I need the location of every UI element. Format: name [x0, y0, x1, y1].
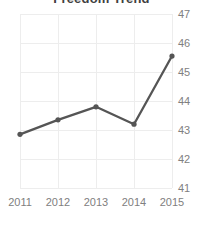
chart-title: Freedom Trend — [0, 0, 203, 6]
y-tick-label-42: 42 — [178, 153, 202, 165]
plot-area — [20, 14, 172, 188]
data-point-2012 — [55, 117, 60, 122]
x-tick-label-2015: 2015 — [149, 196, 195, 208]
data-point-2013 — [93, 104, 98, 109]
y-tick-label-47: 47 — [178, 8, 202, 20]
y-tick-label-43: 43 — [178, 124, 202, 136]
data-point-2015 — [169, 53, 174, 58]
y-tick-label-45: 45 — [178, 66, 202, 78]
y-tick-label-46: 46 — [178, 37, 202, 49]
data-point-2014 — [131, 122, 136, 127]
y-tick-label-41: 41 — [178, 182, 202, 194]
line-chart: Freedom Trend 41424344454647 20112012201… — [0, 0, 203, 229]
data-series — [20, 14, 172, 188]
gridline-y-41 — [20, 188, 172, 189]
y-tick-label-44: 44 — [178, 95, 202, 107]
series-line-freedom-trend — [20, 56, 172, 134]
data-point-2011 — [17, 132, 22, 137]
gridline-x-2015 — [172, 14, 173, 188]
